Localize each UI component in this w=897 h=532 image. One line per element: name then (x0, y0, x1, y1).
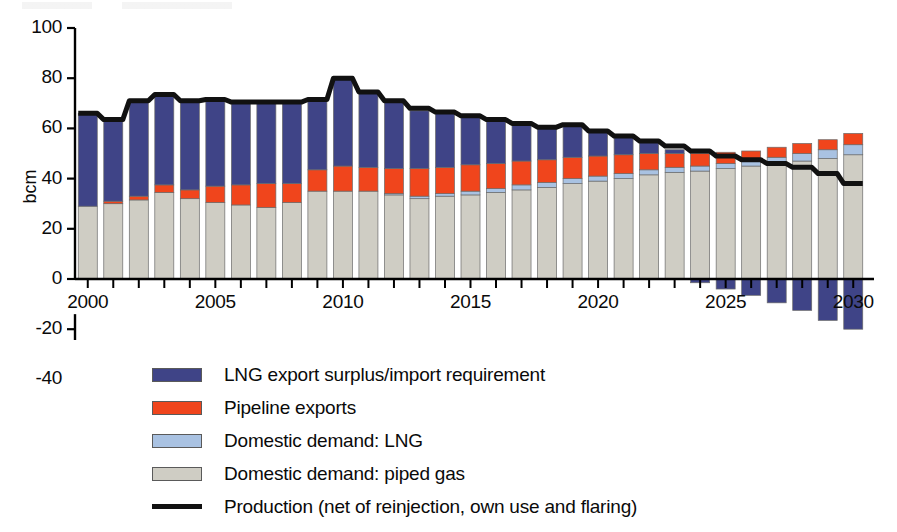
bar-segment (538, 126, 557, 160)
bar-segment (282, 102, 301, 184)
bar-segment (563, 126, 582, 157)
bar-segment (384, 169, 403, 194)
bar-segment (231, 205, 250, 279)
chart-legend: LNG export surplus/import requirementPip… (152, 358, 892, 523)
x-tick-label: 2015 (431, 291, 511, 313)
bar-segment (665, 172, 684, 279)
bar-segment (206, 202, 225, 279)
legend-item-production[interactable]: Production (net of reinjection, own use … (152, 490, 892, 523)
bar-segment (640, 175, 659, 279)
bar-segment (818, 140, 837, 150)
legend-color-swatch (152, 401, 202, 415)
bar-segment (384, 101, 403, 169)
legend-label: LNG export surplus/import requirement (224, 364, 545, 386)
x-tick-label: 2010 (303, 291, 383, 313)
bar-segment (410, 111, 429, 169)
bar-segment (78, 113, 97, 206)
bar-segment (844, 133, 863, 144)
bar-segment (512, 185, 531, 190)
y-tick-label: -20 (0, 317, 62, 339)
bar-segment (282, 184, 301, 203)
bar-segment (563, 157, 582, 178)
bar-segment (512, 161, 531, 185)
bar-segment (818, 159, 837, 279)
bar-segment (614, 179, 633, 279)
bar-segment (844, 145, 863, 155)
bar-segment (333, 166, 352, 191)
bar-segment (793, 161, 812, 279)
bar-segment (461, 191, 480, 195)
bar-segment (640, 154, 659, 170)
x-tick-label: 2030 (813, 291, 893, 313)
bar-segment (410, 199, 429, 279)
bar-segment (359, 191, 378, 279)
legend-label: Pipeline exports (224, 397, 356, 419)
bar-segment (206, 186, 225, 202)
bar-segment (333, 191, 352, 279)
bar-segment (538, 182, 557, 187)
bar-segment (512, 190, 531, 279)
bar-segment (435, 196, 454, 279)
bar-segment (589, 176, 608, 181)
legend-item-lng_export_surplus[interactable]: LNG export surplus/import requirement (152, 358, 892, 391)
bar-segment (716, 169, 735, 279)
bar-segment (691, 166, 710, 171)
legend-color-swatch (152, 467, 202, 481)
bar-segment (461, 165, 480, 191)
bar-segment (461, 195, 480, 279)
bar-segment (308, 170, 327, 191)
y-tick-label: 40 (0, 167, 62, 189)
legend-item-pipeline_exports[interactable]: Pipeline exports (152, 391, 892, 424)
bar-segment (129, 101, 148, 196)
bar-segment (767, 147, 786, 157)
bar-segment (282, 202, 301, 279)
bar-segment (206, 100, 225, 187)
y-tick-label: 80 (0, 66, 62, 88)
bar-segment (231, 102, 250, 185)
bar-segment (410, 169, 429, 197)
legend-item-domestic_piped[interactable]: Domestic demand: piped gas (152, 457, 892, 490)
bar-segment (257, 102, 276, 184)
bar-segment (563, 179, 582, 184)
bar-segment (435, 167, 454, 193)
legend-label: Production (net of reinjection, own use … (224, 496, 637, 518)
bar-segment (155, 185, 174, 193)
bar-segment (104, 120, 123, 202)
bar-segment (665, 167, 684, 172)
bar-segment (104, 204, 123, 279)
bar-segment (793, 143, 812, 153)
y-tick-label: 20 (0, 217, 62, 239)
legend-label: Domestic demand: LNG (224, 430, 423, 452)
bar-segment (384, 195, 403, 279)
bar-segment (538, 187, 557, 279)
bar-segment (231, 185, 250, 205)
legend-color-swatch (152, 368, 202, 382)
bar-segment (767, 164, 786, 279)
bar-segment (435, 194, 454, 197)
legend-color-swatch (152, 434, 202, 448)
bar-segment (155, 192, 174, 279)
bar-segment (461, 116, 480, 165)
bar-segment (487, 164, 506, 189)
bar-segment (614, 155, 633, 174)
bar-segment (180, 199, 199, 279)
bar-segment (691, 171, 710, 279)
bar-segment (180, 190, 199, 199)
bar-segment (589, 181, 608, 279)
y-tick-label: 0 (0, 267, 62, 289)
bar-segment (563, 184, 582, 279)
y-tick-label: -40 (0, 367, 62, 389)
x-tick-label: 2020 (558, 291, 638, 313)
bar-segment (665, 154, 684, 168)
bar-segment (257, 184, 276, 208)
bar-segment (104, 201, 123, 204)
legend-item-domestic_lng[interactable]: Domestic demand: LNG (152, 424, 892, 457)
bar-segment (793, 154, 812, 162)
bar-segment (691, 154, 710, 167)
bar-segment (308, 191, 327, 279)
x-tick-label: 2000 (48, 291, 128, 313)
bar-segment (155, 95, 174, 185)
bar-segment (665, 150, 684, 154)
bar-segment (844, 155, 863, 279)
bar-segment (129, 200, 148, 279)
